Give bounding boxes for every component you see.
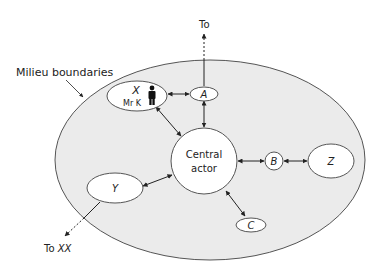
central-label-line1: Central [186, 149, 222, 160]
node-c: C [236, 218, 266, 232]
node-c-label: C [248, 220, 255, 231]
milieu-diagram: Milieu boundaries To To XX X Mr K A Cent… [0, 0, 383, 270]
to-xx-label: To XX [43, 243, 73, 254]
node-central-actor: Central actor [171, 128, 237, 194]
node-z: Z [308, 144, 354, 178]
node-y-label: Y [112, 183, 119, 194]
node-y: Y [87, 173, 143, 203]
node-b-label: B [271, 156, 278, 167]
node-a-label: A [200, 89, 208, 100]
node-z-label: Z [327, 156, 336, 167]
milieu-label-pointer [66, 80, 83, 97]
node-x-label: X [131, 84, 140, 97]
central-label-line2: actor [191, 163, 218, 174]
node-a: A [190, 87, 218, 101]
milieu-label: Milieu boundaries [16, 66, 114, 79]
to-top-label: To [198, 19, 210, 30]
node-b: B [265, 152, 283, 170]
edge-y-out-dashed [65, 218, 84, 236]
node-x: X Mr K [107, 81, 167, 111]
node-x-sublabel: Mr K [123, 99, 142, 108]
